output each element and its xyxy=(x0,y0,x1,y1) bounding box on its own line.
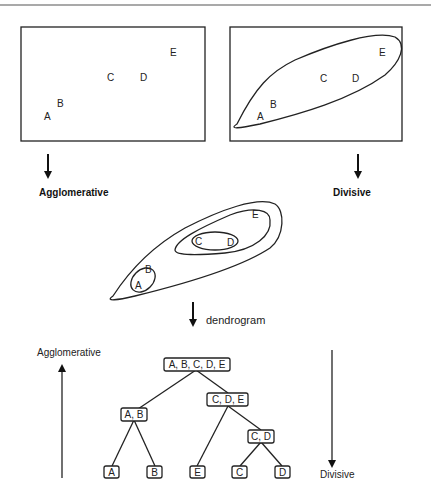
point-b: B xyxy=(57,98,64,109)
point-c: C xyxy=(107,72,114,83)
node-d: D xyxy=(275,466,290,478)
clustering-diagram: A B C D E A B C D E Agglomerative Divisi… xyxy=(0,0,431,504)
node-e: E xyxy=(190,466,205,478)
node-cde: C, D, E xyxy=(207,393,248,406)
right-scatter-panel: A B C D E xyxy=(230,27,402,141)
agglomerative-axis-label: Agglomerative xyxy=(37,347,101,358)
divisive-axis-label: Divisive xyxy=(320,469,355,480)
point-a: A xyxy=(44,111,51,122)
point-a: A xyxy=(257,111,264,122)
edge-ab-b xyxy=(134,420,155,466)
svg-text:C, D: C, D xyxy=(251,431,271,442)
left-scatter-panel: A B C D E xyxy=(21,27,205,141)
point-a: A xyxy=(135,280,142,291)
svg-text:A: A xyxy=(108,467,115,478)
node-a: A xyxy=(104,466,119,478)
svg-text:A, B, C, D, E: A, B, C, D, E xyxy=(169,359,226,370)
node-c: C xyxy=(232,466,247,478)
point-b: B xyxy=(145,264,152,275)
point-d: D xyxy=(140,72,147,83)
edge-cde-cd xyxy=(228,406,261,430)
svg-text:A, B: A, B xyxy=(125,409,144,420)
point-d: D xyxy=(227,237,234,248)
edge-cd-c xyxy=(240,442,261,466)
agglomerative-label: Agglomerative xyxy=(39,187,109,198)
left-panel-frame xyxy=(21,27,205,141)
point-e: E xyxy=(252,209,259,220)
point-d: D xyxy=(352,73,359,84)
right-panel-frame xyxy=(230,27,402,141)
nested-clusters: A B C D E xyxy=(110,202,282,300)
ab-cluster xyxy=(126,263,160,297)
edge-cde-e xyxy=(197,406,228,466)
node-cd: C, D xyxy=(248,430,274,443)
point-c: C xyxy=(320,73,327,84)
svg-text:C, D, E: C, D, E xyxy=(212,394,245,405)
point-b: B xyxy=(270,99,277,110)
svg-text:E: E xyxy=(194,467,201,478)
edge-root-ab xyxy=(135,370,196,411)
edge-root-cde xyxy=(196,370,228,393)
point-e: E xyxy=(379,47,386,58)
dendrogram-nodes: A, B, C, D, E A, B C, D, E C, D A B E C xyxy=(104,358,290,478)
point-c: C xyxy=(195,236,202,247)
node-b: B xyxy=(147,466,162,478)
node-root: A, B, C, D, E xyxy=(164,358,230,371)
svg-text:B: B xyxy=(151,467,158,478)
point-e: E xyxy=(170,47,177,58)
svg-text:D: D xyxy=(279,467,286,478)
node-ab: A, B xyxy=(121,408,147,421)
svg-text:C: C xyxy=(236,467,243,478)
divisive-label: Divisive xyxy=(333,187,371,198)
edge-cd-d xyxy=(261,442,282,466)
edge-ab-a xyxy=(112,420,134,466)
dendrogram-label: dendrogram xyxy=(206,314,265,326)
